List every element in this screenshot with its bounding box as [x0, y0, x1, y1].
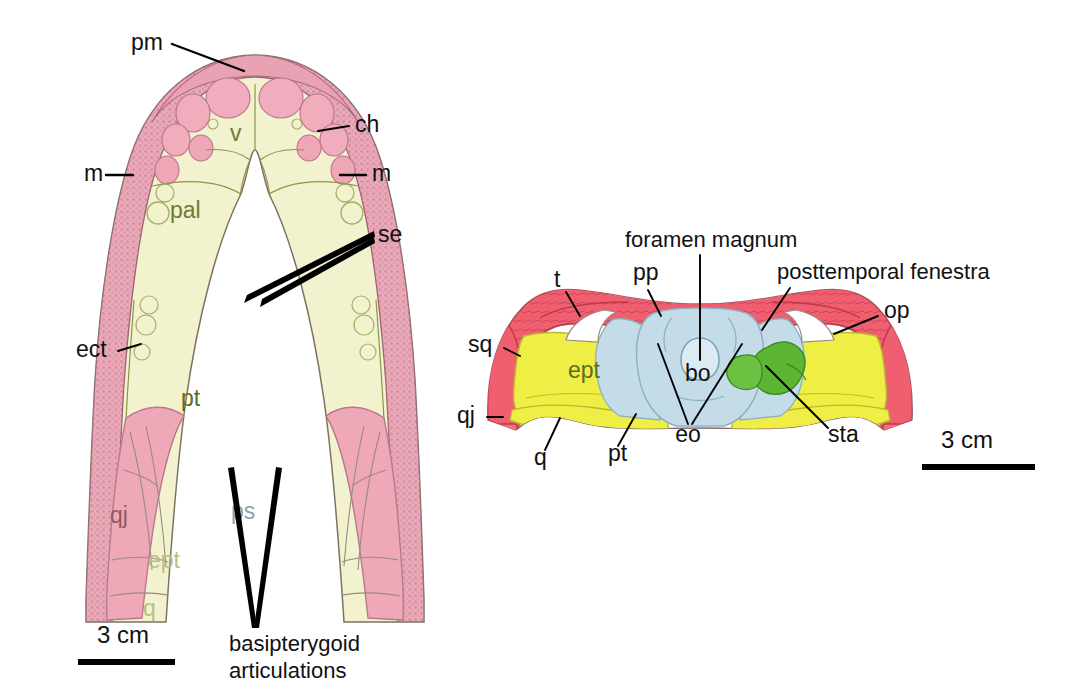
palate-label-m-right: m [372, 160, 391, 186]
palate-label-pal: pal [170, 197, 201, 223]
occiput-label-q: q [534, 444, 547, 470]
palate-label-basipterygoid-line2: articulations [229, 658, 346, 683]
palate-label-ch: ch [355, 111, 379, 137]
occiput-label-qj: qj [457, 402, 475, 428]
palate-label-basipterygoid-line1: basipterygoid [229, 631, 360, 656]
occiput-label-ept: ept [568, 357, 601, 383]
occiput-label-pp: pp [633, 259, 659, 285]
occiput-label-bo: bo [685, 360, 711, 386]
palate-label-ect: ect [76, 336, 107, 362]
occiput-label-pt: pt [608, 440, 628, 466]
figure-root: v pal pt qj ps ept q [0, 0, 1075, 697]
palate-label-q: q [143, 595, 156, 621]
palate-label-se: se [378, 221, 402, 247]
palate-label-m-left: m [84, 160, 103, 186]
palate-label-v: v [230, 120, 242, 146]
skull-figure-canvas: v pal pt qj ps ept q [0, 0, 1075, 697]
occiput-label-foramen-magnum: foramen magnum [625, 227, 797, 252]
palate-label-ept: ept [148, 547, 181, 573]
palate-label-pt: pt [181, 385, 201, 411]
occiput-label-sq: sq [468, 331, 492, 357]
palate-label-pm: pm [131, 29, 163, 55]
occiput-scale-label: 3 cm [941, 426, 993, 453]
occiput-label-op: op [884, 297, 910, 323]
occiput-label-sta: sta [828, 421, 859, 447]
occiput-label-eo: eo [675, 421, 701, 447]
occiput-label-posttemporal-fenestra: posttemporal fenestra [777, 259, 991, 284]
palate-scale-label: 3 cm [97, 621, 149, 648]
occiput-label-t: t [554, 266, 561, 292]
palate-label-qj: qj [110, 502, 128, 528]
